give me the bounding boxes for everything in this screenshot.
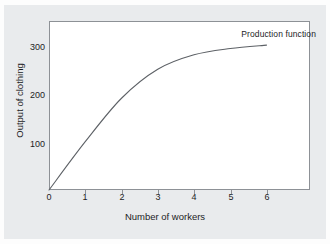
x-tick-mark xyxy=(231,190,232,194)
x-tick-mark xyxy=(194,190,195,194)
x-axis-title: Number of workers xyxy=(0,211,330,222)
y-axis-title: Output of clothing xyxy=(14,46,25,156)
x-tick-mark xyxy=(158,190,159,194)
x-tick-mark xyxy=(85,190,86,194)
x-tick-mark xyxy=(122,190,123,194)
x-axis-ticks: 0 1 2 3 4 5 6 xyxy=(0,0,330,244)
chart-figure: Production function 300 200 100 0 1 2 3 … xyxy=(0,0,330,244)
x-tick-label: 0 xyxy=(46,192,51,202)
x-tick-mark xyxy=(267,190,268,194)
